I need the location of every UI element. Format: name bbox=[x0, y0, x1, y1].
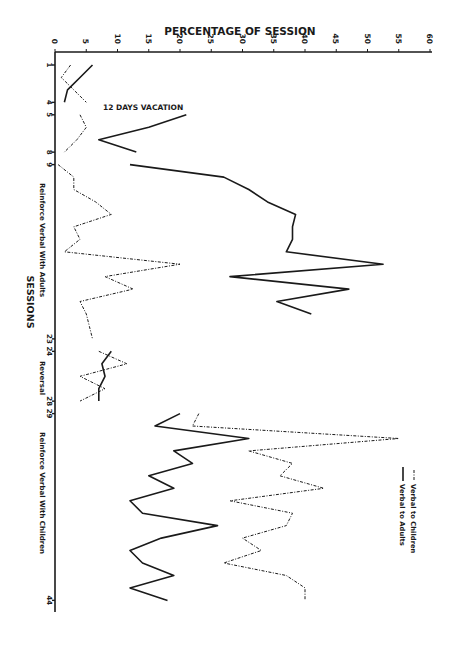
legend: Verbal to Children Verbal to Adults bbox=[398, 467, 417, 554]
verbal-to-children-line bbox=[64, 115, 86, 152]
verbal-to-adults-line bbox=[130, 414, 249, 601]
verbal-to-children-line bbox=[193, 414, 399, 601]
session-tick-label: 8 bbox=[45, 150, 53, 155]
session-tick-label: 1 bbox=[45, 63, 53, 68]
percentage-tick-label: 15 bbox=[144, 34, 153, 44]
verbal-to-adults-line bbox=[99, 115, 187, 152]
verbal-to-children-line bbox=[58, 165, 180, 339]
legend-label-children: Verbal to Children bbox=[409, 484, 417, 554]
session-tick-label: 24 bbox=[45, 346, 53, 356]
percentage-tick-label: 45 bbox=[331, 34, 340, 44]
sessions-axis-title: SESSIONS bbox=[25, 276, 36, 329]
phase-label-reversal: Reversal bbox=[38, 361, 46, 395]
session-tick-label: 9 bbox=[45, 162, 53, 167]
chart: 051015202530354045505560 145892324282944… bbox=[0, 0, 454, 649]
percentage-tick-label: 0 bbox=[50, 39, 59, 44]
session-tick-label: 28 bbox=[45, 396, 53, 406]
session-tick-label: 44 bbox=[45, 595, 53, 605]
phase-label-adults: Reinforce Verbal With Adults bbox=[38, 183, 46, 297]
percentage-tick-label: 10 bbox=[113, 34, 122, 44]
percentage-tick-label: 55 bbox=[394, 34, 403, 44]
verbal-to-adults-line bbox=[99, 351, 112, 401]
session-tick-label: 29 bbox=[45, 409, 53, 419]
session-tick-label: 5 bbox=[45, 112, 53, 117]
percentage-tick-label: 5 bbox=[81, 39, 90, 44]
phase-label-children: Reinforce Verbal With Children bbox=[38, 432, 46, 554]
verbal-to-children-line bbox=[80, 351, 127, 401]
percentage-tick-label: 50 bbox=[363, 34, 372, 44]
verbal-to-adults-line bbox=[64, 65, 92, 102]
legend-label-adults: Verbal to Adults bbox=[398, 484, 406, 546]
session-tick-label: 4 bbox=[45, 100, 53, 105]
series-layer bbox=[58, 65, 399, 600]
vacation-annotation: 12 DAYS VACATION bbox=[103, 103, 183, 112]
session-tick-label: 23 bbox=[45, 334, 53, 344]
percentage-tick-label: 60 bbox=[425, 34, 434, 44]
percentage-axis-title: PERCENTAGE OF SESSION bbox=[164, 25, 315, 37]
verbal-to-adults-line bbox=[130, 165, 383, 314]
